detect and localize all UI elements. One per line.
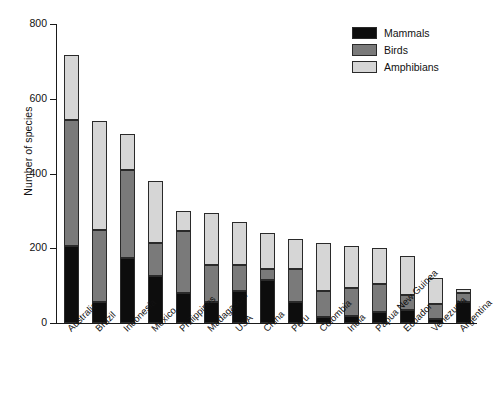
legend-swatch	[352, 27, 377, 39]
legend-swatch	[352, 61, 377, 73]
legend-item: Mammals	[352, 25, 439, 40]
bar-segment-amphibians	[176, 211, 191, 232]
bar-segment-amphibians	[232, 222, 247, 265]
legend-label: Birds	[384, 44, 408, 56]
legend-item: Amphibians	[352, 59, 439, 74]
legend-label: Mammals	[384, 27, 430, 39]
bar-segment-birds	[260, 269, 275, 280]
bar-segment-amphibians	[92, 121, 107, 229]
y-tick: 0	[50, 323, 57, 324]
bar-group	[92, 121, 107, 323]
y-tick: 600	[50, 99, 57, 100]
y-tick: 400	[50, 174, 57, 175]
bar-segment-birds	[148, 243, 163, 277]
bar-segment-amphibians	[316, 243, 331, 292]
bar-segment-amphibians	[148, 181, 163, 243]
x-axis-labels: AustraliaBrazilIndonesiaMexicoPhilippine…	[57, 326, 477, 411]
bar-segment-birds	[288, 269, 303, 303]
bar-segment-birds	[64, 120, 79, 246]
y-tick-label: 400	[29, 167, 47, 179]
bar-segment-birds	[176, 231, 191, 293]
bar-segment-amphibians	[288, 239, 303, 269]
bar-segment-birds	[372, 284, 387, 312]
y-tick: 800	[50, 24, 57, 25]
y-axis-title: Number of species	[22, 51, 34, 251]
chart-legend: MammalsBirdsAmphibians	[352, 25, 439, 76]
y-tick-label: 800	[29, 17, 47, 29]
bar-segment-amphibians	[64, 55, 79, 120]
bar-segment-birds	[120, 170, 135, 258]
bar-segment-amphibians	[344, 246, 359, 287]
y-tick-label: 200	[29, 241, 47, 253]
bar-segment-amphibians	[260, 233, 275, 269]
bar-segment-mammals	[64, 246, 79, 323]
legend-swatch	[352, 44, 377, 56]
bar-segment-birds	[232, 265, 247, 291]
bar-segment-amphibians	[456, 289, 471, 293]
y-tick-label: 600	[29, 92, 47, 104]
bar-group	[316, 243, 331, 323]
bar-segment-amphibians	[204, 213, 219, 265]
bar-segment-amphibians	[372, 248, 387, 284]
bar-segment-birds	[92, 230, 107, 303]
legend-item: Birds	[352, 42, 439, 57]
bar-group	[372, 248, 387, 323]
bar-group	[176, 211, 191, 323]
legend-label: Amphibians	[384, 61, 439, 73]
bar-group	[120, 134, 135, 323]
bar-group	[260, 233, 275, 323]
y-tick: 200	[50, 248, 57, 249]
bar-group	[64, 55, 79, 323]
bar-group	[288, 239, 303, 323]
bar-segment-amphibians	[120, 134, 135, 170]
y-tick-label: 0	[41, 316, 47, 328]
